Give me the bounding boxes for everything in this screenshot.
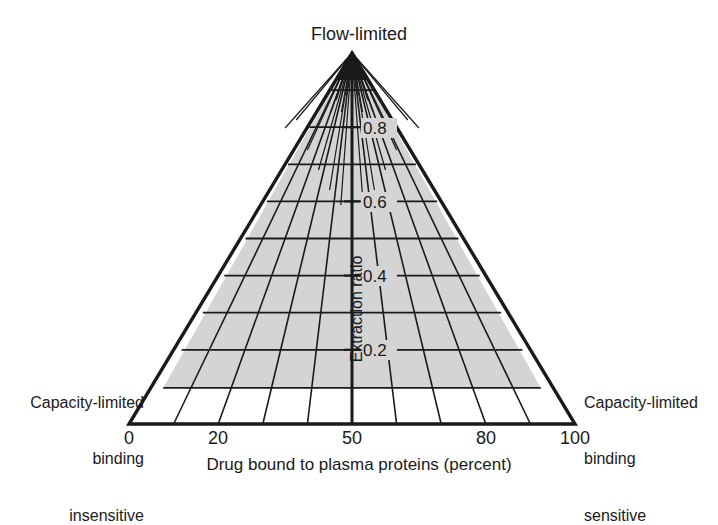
ratio-label-0-4: 0.4 <box>363 267 387 287</box>
right-annotation-line-1: Capacity-limited <box>584 394 718 413</box>
ratio-label-0-6: 0.6 <box>363 193 387 213</box>
x-tick-label-50: 50 <box>322 428 382 449</box>
ratio-label-0-8: 0.8 <box>363 119 387 139</box>
apex-label: Flow-limited <box>0 24 718 45</box>
x-tick-label-100: 100 <box>545 428 605 449</box>
ratio-label-0-2: 0.2 <box>363 341 387 361</box>
x-tick-label-80: 80 <box>456 428 516 449</box>
x-tick-label-20: 20 <box>188 428 248 449</box>
right-annotation-line-3: sensitive <box>584 507 718 525</box>
x-tick-label-0: 0 <box>99 428 159 449</box>
x-axis-title: Drug bound to plasma proteins (percent) <box>0 455 718 475</box>
left-annotation-line-3: insensitive <box>4 507 144 525</box>
left-annotation-line-1: Capacity-limited <box>4 394 144 413</box>
